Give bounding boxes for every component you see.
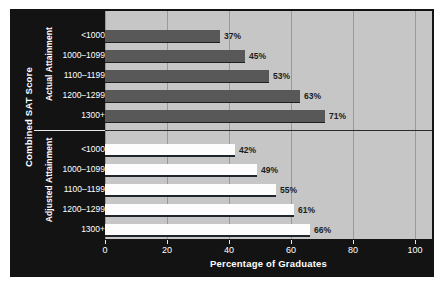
xtick-mark-60 [291, 240, 292, 244]
bar-value-actual-lt1000: 37% [224, 30, 241, 43]
category-label-adjusted-3: 1200–1299 [27, 204, 105, 214]
bar-adjusted-lt1000[interactable] [105, 144, 235, 157]
bar-adjusted-1200-1299[interactable] [105, 204, 294, 217]
xtick-mark-20 [167, 240, 168, 244]
bar-actual-1100-1199[interactable] [105, 70, 269, 83]
bar-value-adjusted-1000-1099: 49% [261, 164, 278, 177]
bar-adjusted-1000-1099[interactable] [105, 164, 257, 177]
group-title-actual-attainment: Actual Attainment [42, 9, 56, 119]
xtick-label-100: 100 [400, 245, 430, 256]
gridline-100 [415, 11, 416, 239]
xtick-label-80: 80 [338, 245, 368, 256]
category-label-adjusted-4: 1300+ [27, 224, 105, 234]
bar-value-adjusted-lt1000: 42% [239, 144, 256, 157]
bar-actual-lt1000[interactable] [105, 30, 220, 43]
bar-actual-1200-1299[interactable] [105, 90, 300, 103]
chart-panel: Combined SAT Score Actual Attainment Adj… [10, 9, 434, 277]
group-title-adjusted-attainment: Adjusted Attainment [42, 125, 56, 235]
category-label-actual-0: <1000 [27, 30, 105, 40]
bar-value-actual-1000-1099: 45% [249, 50, 266, 63]
bar-value-adjusted-1200-1299: 61% [298, 204, 315, 217]
xtick-label-0: 0 [90, 245, 120, 256]
category-label-adjusted-0: <1000 [27, 144, 105, 154]
chart-figure: Combined SAT Score Actual Attainment Adj… [0, 0, 445, 290]
category-label-adjusted-1: 1000–1099 [27, 164, 105, 174]
bar-actual-1300plus[interactable] [105, 110, 325, 123]
xtick-mark-100 [415, 240, 416, 244]
bar-value-adjusted-1100-1199: 55% [280, 184, 297, 197]
xtick-label-60: 60 [276, 245, 306, 256]
xtick-mark-40 [229, 240, 230, 244]
category-label-actual-1: 1000–1099 [27, 50, 105, 60]
bar-value-actual-1300plus: 71% [329, 110, 346, 123]
xtick-mark-0 [105, 240, 106, 244]
group-divider-label-side [34, 130, 105, 131]
bar-value-adjusted-1300plus: 66% [314, 224, 331, 237]
bar-value-actual-1100-1199: 53% [273, 70, 290, 83]
bar-value-actual-1200-1299: 63% [304, 90, 321, 103]
category-label-actual-2: 1100–1199 [27, 70, 105, 80]
xtick-mark-80 [353, 240, 354, 244]
xtick-label-20: 20 [152, 245, 182, 256]
plot-area: 37% 45% 53% 63% 71% 42% 49% 55% 61% 66% [105, 11, 432, 239]
category-label-adjusted-2: 1100–1199 [27, 184, 105, 194]
xtick-label-40: 40 [214, 245, 244, 256]
x-axis-title: Percentage of Graduates [105, 258, 432, 269]
group-divider-plot [105, 130, 432, 131]
bar-actual-1000-1099[interactable] [105, 50, 245, 63]
category-label-actual-3: 1200–1299 [27, 90, 105, 100]
bar-adjusted-1300plus[interactable] [105, 224, 310, 237]
bar-adjusted-1100-1199[interactable] [105, 184, 276, 197]
gridline-80 [353, 11, 354, 239]
category-label-actual-4: 1300+ [27, 110, 105, 120]
